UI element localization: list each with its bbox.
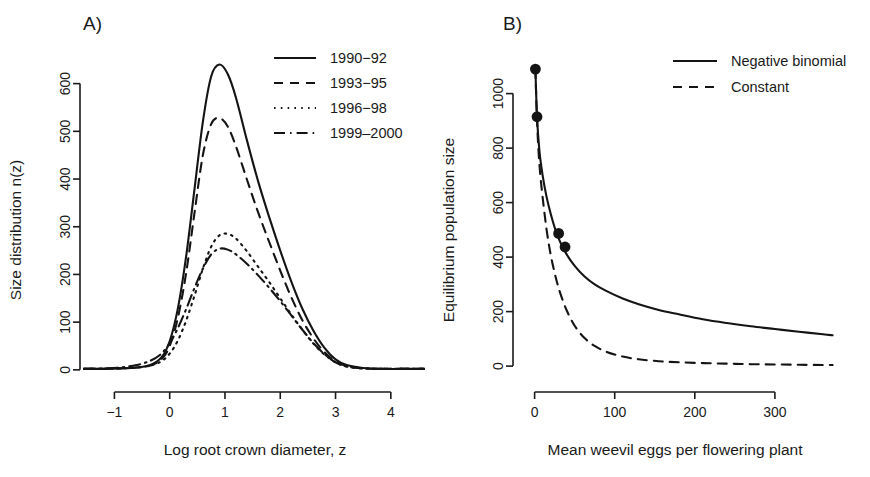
data-curve	[84, 234, 424, 369]
legend-label: 1990−92	[330, 50, 387, 66]
y-tick-label: 200	[57, 263, 73, 287]
y-tick-label: 0	[57, 366, 73, 374]
legend-label: Negative binomial	[731, 53, 846, 69]
y-tick-label: 200	[490, 300, 506, 324]
x-tick-label: 200	[683, 404, 707, 420]
x-tick-label: 2	[276, 404, 284, 420]
x-tick-label: 100	[603, 404, 627, 420]
x-tick-label: −1	[106, 404, 122, 420]
panel-a-legend: 1990−921993−951996−981999–2000	[274, 50, 403, 141]
data-point	[532, 111, 543, 122]
panel-a: A) Size distribution n(z) Log root crown…	[0, 0, 435, 477]
panel-a-ylabel: Size distribution n(z)	[7, 160, 24, 300]
data-curve	[84, 248, 424, 369]
data-point	[553, 228, 564, 239]
y-tick-label: 600	[57, 72, 73, 96]
x-tick-label: 1	[221, 404, 229, 420]
panel-b-tag: B)	[503, 13, 522, 34]
x-tick-label: 4	[387, 404, 395, 420]
data-curve	[535, 69, 832, 365]
panel-b: B) Equilibrium population size Mean weev…	[435, 0, 870, 477]
legend-label: 1993−95	[330, 75, 387, 91]
panel-a-tag: A)	[83, 13, 102, 34]
y-tick-label: 1000	[490, 78, 506, 109]
legend-label: Constant	[731, 79, 789, 95]
y-tick-label: 400	[490, 245, 506, 269]
y-tick-label: 100	[57, 310, 73, 334]
data-point	[560, 242, 571, 253]
panel-a-svg: A) Size distribution n(z) Log root crown…	[0, 0, 435, 477]
data-curve	[84, 118, 424, 369]
legend-label: 1996−98	[330, 100, 387, 116]
panel-a-xlabel: Log root crown diameter, z	[164, 441, 347, 458]
panel-b-svg: B) Equilibrium population size Mean weev…	[435, 0, 870, 477]
y-tick-label: 0	[490, 362, 506, 370]
panel-b-ylabel: Equilibrium population size	[440, 138, 457, 322]
figure-container: A) Size distribution n(z) Log root crown…	[0, 0, 870, 477]
panel-b-legend: Negative binomialConstant	[673, 53, 846, 95]
panel-b-ticks: 010020030002004006008001000	[490, 78, 787, 420]
x-tick-label: 0	[166, 404, 174, 420]
y-tick-label: 600	[490, 191, 506, 215]
panel-b-curves	[535, 69, 832, 365]
data-point	[530, 64, 541, 75]
x-tick-label: 3	[332, 404, 340, 420]
legend-label: 1999–2000	[330, 125, 403, 141]
y-tick-label: 800	[490, 136, 506, 160]
y-tick-label: 300	[57, 215, 73, 239]
panel-b-xlabel: Mean weevil eggs per flowering plant	[547, 441, 803, 458]
data-curve	[535, 69, 832, 335]
x-tick-label: 0	[531, 404, 539, 420]
y-tick-label: 400	[57, 167, 73, 191]
y-tick-label: 500	[57, 119, 73, 143]
panel-b-axes	[513, 94, 775, 392]
x-tick-label: 300	[763, 404, 787, 420]
